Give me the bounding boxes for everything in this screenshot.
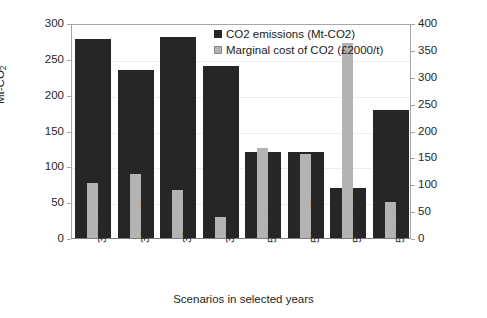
y-axis-right-tick-label: 150	[418, 152, 464, 164]
bar-chart: Mt-CO2 300250200150100500 40035030025020…	[0, 0, 487, 318]
x-axis-category-label: 35-LC	[97, 212, 109, 243]
y-axis-left-tick-label: 100	[18, 161, 64, 173]
legend-swatch-co2-icon	[214, 30, 222, 38]
y-axis-right-tick-mark	[411, 239, 415, 240]
y-axis-title-subscript: 2	[0, 65, 8, 70]
x-axis-category-label: 50-LC-LC	[352, 193, 364, 243]
y-axis-left-tick-label: 200	[18, 90, 64, 102]
legend-label-co2: CO2 emissions (Mt-CO2)	[226, 28, 355, 40]
legend-label-cost: Marginal cost of CO2 (£2000/t)	[226, 44, 383, 56]
x-axis-category-label: 35-LC-EA	[140, 193, 152, 244]
y-axis-right-tick-label: 400	[418, 18, 464, 30]
y-axis-right-tick-label: 200	[418, 126, 464, 138]
y-axis-right-tick-label: 100	[418, 179, 464, 191]
y-axis-title: Mt-CO2	[0, 65, 6, 104]
legend-swatch-cost-icon	[214, 46, 222, 54]
legend: CO2 emissions (Mt-CO2) Marginal cost of …	[214, 26, 383, 58]
y-axis-title-text: Mt-CO	[0, 70, 6, 104]
y-axis-right-tick-label: 0	[418, 233, 464, 245]
y-axis-left-tick-label: 300	[18, 18, 64, 30]
x-axis-category-label: 50-LC-EA	[310, 193, 322, 244]
x-axis-category-label: 35-LC-SO	[225, 191, 237, 243]
x-axis-category-label: 50-LC-SO	[395, 191, 407, 243]
x-axis-category-label: 50-LC	[267, 212, 279, 243]
x-axis-title: Scenarios in selected years	[0, 293, 487, 305]
legend-item-co2: CO2 emissions (Mt-CO2)	[214, 26, 383, 41]
y-axis-left-tick-mark	[67, 239, 71, 240]
y-axis-left-tick-label: 150	[18, 126, 64, 138]
y-axis-right-tick-label: 50	[418, 206, 464, 218]
y-axis-right-tick-label: 250	[418, 99, 464, 111]
y-axis-left-tick-label: 250	[18, 54, 64, 66]
bar-group	[72, 25, 115, 238]
y-axis-left-tick-label: 0	[18, 233, 64, 245]
x-axis-category-label: 35-LC-LC	[182, 193, 194, 243]
legend-item-cost: Marginal cost of CO2 (£2000/t)	[214, 42, 383, 57]
y-axis-right-tick-label: 350	[418, 45, 464, 57]
y-axis-right-tick-label: 300	[418, 72, 464, 84]
y-axis-left-tick-label: 50	[18, 197, 64, 209]
